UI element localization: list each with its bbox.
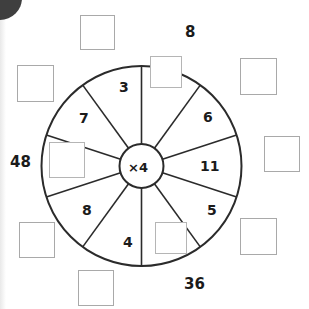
outer-label-left: 48 <box>10 155 31 170</box>
sector-box-top-right[interactable] <box>150 56 182 88</box>
outer-box-top[interactable] <box>80 15 115 50</box>
sector-box-left[interactable] <box>49 142 85 178</box>
outer-box-top-left[interactable] <box>17 65 54 102</box>
sector-box-bottom-right[interactable] <box>155 222 187 254</box>
sector-label-11: 11 <box>200 159 219 173</box>
worksheet-page: ×4 6 11 5 4 8 7 3 8 48 36 <box>0 0 309 309</box>
sector-label-3: 3 <box>119 80 129 94</box>
outer-box-bottom-right[interactable] <box>240 218 277 255</box>
outer-box-bottom-left[interactable] <box>19 222 55 258</box>
outer-box-bottom[interactable] <box>78 270 114 306</box>
sector-label-8: 8 <box>82 203 92 217</box>
outer-label-bottom: 36 <box>184 277 205 292</box>
multiplication-wheel-graphic <box>0 0 309 309</box>
sector-label-7: 7 <box>79 111 89 125</box>
sector-label-4: 4 <box>123 235 133 249</box>
outer-box-top-right[interactable] <box>240 58 277 95</box>
outer-label-top: 8 <box>185 25 195 40</box>
sector-label-5: 5 <box>207 203 217 217</box>
hub-operation-label: ×4 <box>128 160 148 175</box>
outer-box-right[interactable] <box>264 136 300 172</box>
sector-label-6: 6 <box>203 110 213 124</box>
